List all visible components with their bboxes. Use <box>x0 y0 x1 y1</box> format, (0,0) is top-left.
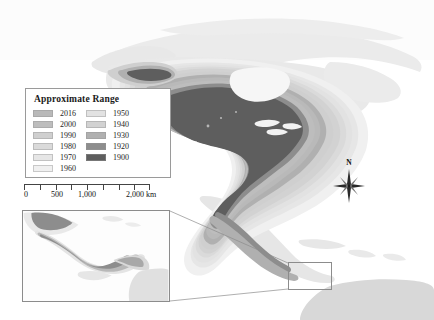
legend-swatch <box>86 110 106 117</box>
scale-label-0: 0 <box>24 190 28 199</box>
legend-label: 1960 <box>60 164 76 173</box>
legend-title: Approximate Range <box>34 94 163 104</box>
legend-label: 1930 <box>113 131 129 140</box>
compass-star-icon <box>332 168 366 204</box>
legend-swatch <box>86 154 106 161</box>
legend-item: 1990 <box>33 130 76 140</box>
legend-item: 1900 <box>86 152 129 162</box>
inset-source-rectangle <box>288 262 332 290</box>
legend-label: 1920 <box>113 142 129 151</box>
legend-column-right: 1950 1940 1930 1920 1900 <box>86 108 129 173</box>
scale-bar: 0 500 1,000 2,000 km <box>24 184 150 201</box>
legend-label: 1980 <box>60 142 76 151</box>
legend-item: 2016 <box>33 108 76 118</box>
legend-swatch <box>33 110 53 117</box>
scale-label-500: 500 <box>51 190 63 199</box>
legend-column-left: 2016 2000 1990 1980 1970 <box>33 108 76 173</box>
legend-label: 1950 <box>113 109 129 118</box>
inset-geography <box>23 211 169 301</box>
legend-swatch <box>33 132 53 139</box>
legend-swatch <box>33 121 53 128</box>
legend-swatch <box>33 154 53 161</box>
scale-bar-labels: 0 500 1,000 2,000 km <box>24 190 150 201</box>
legend-label: 2000 <box>60 120 76 129</box>
scale-label-2000: 2,000 km <box>126 190 156 199</box>
legend-swatch <box>33 165 53 172</box>
legend-swatch <box>86 143 106 150</box>
compass-rose: N <box>332 158 366 204</box>
legend-item: 2000 <box>33 119 76 129</box>
legend-label: 1990 <box>60 131 76 140</box>
legend-swatch <box>86 132 106 139</box>
legend-item: 1930 <box>86 130 129 140</box>
legend-swatch <box>33 143 53 150</box>
legend-item: 1950 <box>86 108 129 118</box>
range-map: Approximate Range 2016 2000 1990 1980 <box>0 0 434 320</box>
inset-map[interactable] <box>22 210 170 302</box>
legend-item: 1940 <box>86 119 129 129</box>
legend-item: 1960 <box>33 163 76 173</box>
legend-label: 2016 <box>60 109 76 118</box>
scale-label-1000: 1,000 <box>78 190 96 199</box>
legend-item: 1920 <box>86 141 129 151</box>
legend-label: 1940 <box>113 120 129 129</box>
compass-north-label: N <box>332 158 366 167</box>
legend-item: 1970 <box>33 152 76 162</box>
legend: Approximate Range 2016 2000 1990 1980 <box>25 88 171 178</box>
legend-item: 1980 <box>33 141 76 151</box>
legend-swatch <box>86 121 106 128</box>
legend-label: 1970 <box>60 153 76 162</box>
legend-label: 1900 <box>113 153 129 162</box>
